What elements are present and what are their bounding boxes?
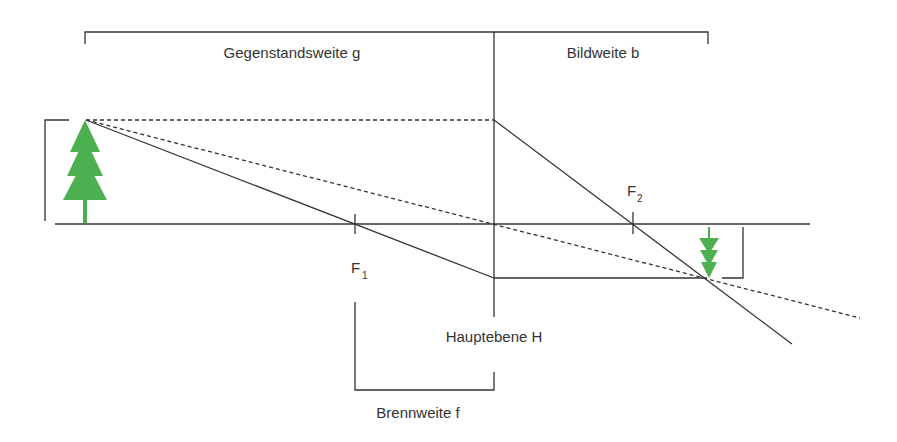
image-distance-label: Bildweite b <box>567 44 640 61</box>
lens-diagram: Gegenstandsweite g Bildweite b F 1 F 2 H… <box>0 0 897 442</box>
focus1-subscript: 1 <box>362 270 368 281</box>
focus2-subscript: 2 <box>637 193 643 204</box>
refracted-focal-ray <box>494 120 792 344</box>
central-ray <box>86 120 860 318</box>
focus1-label: F <box>351 259 360 276</box>
object-height-bracket <box>45 120 69 221</box>
focus2-label: F <box>627 182 636 199</box>
focal-ray <box>86 120 494 278</box>
focal-length-bracket <box>355 302 494 390</box>
object-distance-label: Gegenstandsweite g <box>224 44 361 61</box>
image-tree-icon <box>699 227 719 278</box>
focal-length-label: Brennweite f <box>376 404 460 421</box>
object-distance-bracket <box>85 32 708 44</box>
principal-plane-label: Hauptebene H <box>446 328 543 345</box>
image-height-bracket <box>722 227 743 278</box>
object-tree-icon <box>63 120 107 223</box>
